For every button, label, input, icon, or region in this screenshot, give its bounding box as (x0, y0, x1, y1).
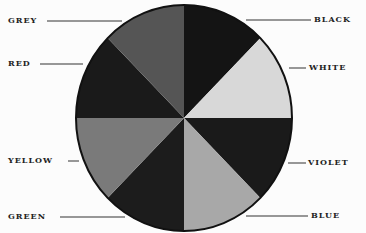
color-wheel-diagram (0, 0, 366, 233)
label-violet: VIOLET (308, 156, 349, 168)
label-blue: BLUE (311, 209, 340, 221)
label-red: RED (8, 57, 31, 69)
label-green: GREEN (8, 210, 46, 222)
label-black: BLACK (314, 13, 351, 25)
color-wheel (76, 5, 292, 231)
label-yellow: YELLOW (8, 154, 53, 166)
label-grey: GREY (8, 14, 37, 26)
label-white: WHITE (309, 61, 346, 73)
